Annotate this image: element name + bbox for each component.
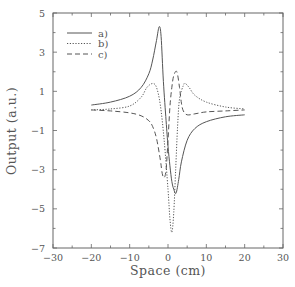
x-tick-label: 20 bbox=[239, 252, 251, 263]
x-axis-ticks: −30−20−100102030 bbox=[43, 13, 289, 263]
x-tick-label: 0 bbox=[165, 252, 171, 263]
x-tick-label: −20 bbox=[81, 252, 101, 263]
plot-border bbox=[53, 13, 283, 248]
y-tick-label: −5 bbox=[31, 203, 45, 214]
x-tick-label: −30 bbox=[43, 252, 63, 263]
x-tick-label: 30 bbox=[277, 252, 289, 263]
x-tick-label: −10 bbox=[120, 252, 140, 263]
series-group bbox=[91, 27, 244, 233]
y-tick-label: 3 bbox=[39, 47, 45, 58]
plot-frame bbox=[53, 13, 283, 248]
series-line-c bbox=[91, 71, 244, 177]
legend-label: b) bbox=[98, 38, 108, 49]
x-axis-title: Space (cm) bbox=[130, 263, 206, 278]
series-line-b bbox=[91, 83, 244, 232]
y-axis-title: Output (a.u.) bbox=[4, 87, 19, 175]
y-tick-label: −1 bbox=[31, 125, 45, 136]
y-axis-ticks: 531−1−3−5−7 bbox=[31, 8, 283, 254]
y-tick-label: −3 bbox=[31, 164, 45, 175]
legend-label: c) bbox=[98, 49, 108, 60]
y-tick-label: 1 bbox=[39, 86, 45, 97]
legend-label: a) bbox=[98, 28, 108, 39]
series-line-a bbox=[91, 27, 244, 194]
line-chart: −30−20−100102030 531−1−3−5−7 a)b)c) Spac… bbox=[0, 0, 295, 287]
y-tick-label: −7 bbox=[31, 243, 45, 254]
legend: a)b)c) bbox=[67, 28, 108, 60]
x-tick-label: 10 bbox=[200, 252, 212, 263]
y-tick-label: 5 bbox=[39, 8, 45, 19]
